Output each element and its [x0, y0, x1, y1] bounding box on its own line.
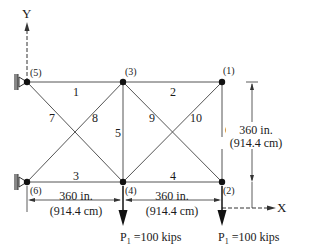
dim-arrow-up-icon: [250, 83, 254, 90]
member-label-8: 8: [92, 112, 98, 124]
member-label-5: 5: [115, 127, 121, 139]
node-5: [24, 79, 30, 85]
span-right-inches: 360 in.: [136, 190, 208, 202]
node-label-2: (2): [223, 185, 235, 197]
member-label-2: 2: [170, 86, 176, 98]
load-label-node-2: P1 =100 kips: [218, 231, 279, 248]
truss-nodes: [24, 79, 225, 185]
span-left-cm: (914.4 cm): [36, 205, 116, 217]
height-cm: (914.4 cm): [219, 137, 293, 149]
node-label-1: (1): [223, 65, 235, 77]
member-label-3: 3: [73, 170, 79, 182]
node-3: [120, 79, 126, 85]
height-inches: 360 in.: [226, 124, 286, 136]
load-label-node-4: P1 =100 kips: [120, 231, 181, 248]
node-label-4: (4): [125, 185, 137, 197]
node-label-3: (3): [125, 66, 137, 78]
member-label-10: 10: [190, 112, 202, 124]
member-label-7: 7: [49, 112, 55, 124]
span-left-inches: 360 in.: [40, 190, 112, 202]
y-axis-arrow-icon: [25, 22, 30, 31]
span-right-cm: (914.4 cm): [132, 205, 212, 217]
member-label-1: 1: [73, 86, 79, 98]
node-1: [219, 79, 225, 85]
member-label-9: 9: [149, 112, 155, 124]
truss-members: [27, 82, 222, 182]
node-label-5: (5): [30, 67, 42, 79]
member-label-4: 4: [170, 170, 176, 182]
x-axis-label: X: [277, 202, 286, 214]
y-axis-label: Y: [22, 8, 31, 20]
dim-arrow-down-icon: [250, 175, 254, 182]
x-axis-arrow-icon: [267, 206, 276, 211]
